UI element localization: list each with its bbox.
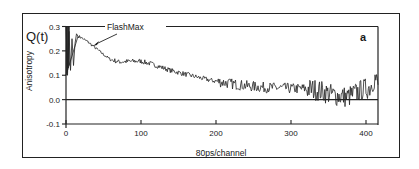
svg-text:0.1: 0.1 <box>49 71 61 80</box>
svg-text:0.2: 0.2 <box>49 47 61 56</box>
svg-text:0: 0 <box>64 129 69 138</box>
flashmax-arrow <box>96 34 117 44</box>
panel-label: a <box>360 31 367 43</box>
svg-text:0.0: 0.0 <box>49 96 61 105</box>
y-axis-label: Anisotropy <box>24 50 34 91</box>
x-axis-label: 80ps/channel <box>196 148 247 158</box>
flashmax-label: FlashMax <box>107 22 145 32</box>
svg-text:400: 400 <box>359 129 373 138</box>
svg-text:200: 200 <box>209 129 223 138</box>
axes <box>66 27 378 129</box>
arrow-head-icon <box>93 41 99 46</box>
y-symbol-label: Q(t) <box>26 29 48 44</box>
svg-text:100: 100 <box>134 129 148 138</box>
anisotropy-chart: -0.10.00.10.20.3 0100200300400 FlashMax … <box>0 0 419 169</box>
plot-frame <box>66 27 378 126</box>
y-axis-ticks: -0.10.00.10.20.3 <box>46 23 66 130</box>
svg-text:-0.1: -0.1 <box>46 120 60 129</box>
data-series-line <box>66 27 378 107</box>
svg-text:300: 300 <box>284 129 298 138</box>
svg-text:0.3: 0.3 <box>49 23 61 32</box>
x-axis-ticks: 0100200300400 <box>64 120 373 138</box>
